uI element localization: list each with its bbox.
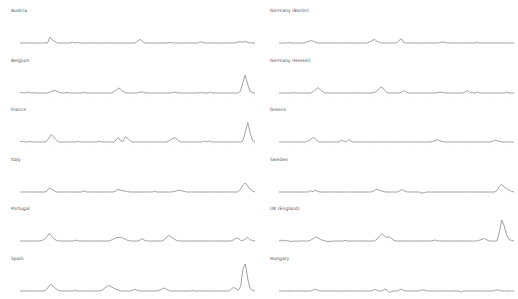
svg-text:·: · (4, 175, 5, 179)
series-line (279, 184, 514, 193)
svg-text:·: · (4, 26, 5, 30)
svg-text:·: · (261, 274, 262, 278)
line-chart: · (0, 0, 259, 50)
line-chart: · (0, 50, 259, 100)
series-line (279, 289, 514, 292)
chart-panel: Belgium· (0, 50, 259, 100)
svg-text:·: · (261, 175, 262, 179)
series-line (20, 264, 255, 291)
line-chart: · (259, 198, 518, 248)
series-line (279, 87, 514, 93)
svg-text:·: · (4, 274, 5, 278)
series-line (20, 123, 255, 143)
chart-panel: Hungary· (259, 248, 518, 298)
chart-panel: Italy· (0, 149, 259, 199)
svg-text:·: · (4, 76, 5, 80)
series-line (279, 138, 514, 143)
chart-panel: Germany (Hessel)· (259, 50, 518, 100)
chart-panel: Spain· (0, 248, 259, 298)
line-chart: · (0, 99, 259, 149)
chart-panel: France· (0, 99, 259, 149)
line-chart: · (0, 198, 259, 248)
svg-text:·: · (261, 224, 262, 228)
chart-panel: UK (England)· (259, 198, 518, 248)
chart-panel: Sweden· (259, 149, 518, 199)
svg-text:·: · (261, 125, 262, 129)
line-chart: · (259, 99, 518, 149)
svg-text:·: · (261, 26, 262, 30)
line-chart: · (0, 248, 259, 298)
chart-panel: Austria· (0, 0, 259, 50)
line-chart: · (0, 149, 259, 199)
svg-text:·: · (261, 76, 262, 80)
series-line (20, 183, 255, 192)
series-line (20, 37, 255, 43)
line-chart: · (259, 50, 518, 100)
small-multiples-grid: Austria·Germany (Berlin)·Belgium·Germany… (0, 0, 518, 299)
chart-panel: Germany (Berlin)· (259, 0, 518, 50)
line-chart: · (259, 149, 518, 199)
line-chart: · (259, 248, 518, 298)
svg-text:·: · (4, 224, 5, 228)
series-line (279, 220, 514, 242)
chart-panel: Greece· (259, 99, 518, 149)
series-line (20, 233, 255, 241)
line-chart: · (259, 0, 518, 50)
svg-text:·: · (4, 125, 5, 129)
series-line (279, 39, 514, 43)
series-line (20, 75, 255, 93)
chart-panel: Portugal· (0, 198, 259, 248)
